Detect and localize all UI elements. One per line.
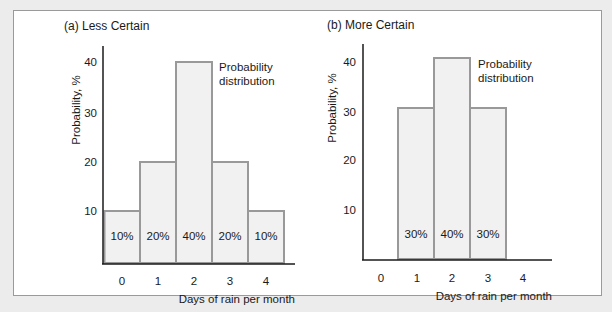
chart-a-ytick-20: 20 <box>84 156 97 168</box>
chart-b-xlabel: Days of rain per month <box>436 290 552 302</box>
chart-b-ytick-20: 20 <box>343 154 356 166</box>
chart-a-bar-3 <box>212 162 248 263</box>
chart-a-annotation-line1: Probability <box>219 61 273 73</box>
chart-b-bar-label-2: 40% <box>440 228 463 240</box>
chart-b-xtick-2: 2 <box>449 272 455 284</box>
chart-a-ytick-40: 40 <box>84 56 97 68</box>
chart-a-xtick-4: 4 <box>263 275 270 287</box>
chart-b-xtick-0: 0 <box>378 272 384 284</box>
chart-a-bar-label-4: 10% <box>254 230 277 242</box>
chart-a-bar-1 <box>140 162 176 263</box>
chart-a-xlabel: Days of rain per month <box>179 293 295 305</box>
chart-b-annotation-line1: Probability <box>478 58 532 70</box>
chart-a-annotation-line2: distribution <box>219 75 275 87</box>
chart-a-ytick-10: 10 <box>84 205 97 217</box>
chart-a: (a) Less Certain Probability, % 40 30 20… <box>64 19 295 305</box>
chart-b-xtick-3: 3 <box>485 272 491 284</box>
chart-b-xtick-1: 1 <box>414 272 420 284</box>
chart-b-annotation-line2: distribution <box>478 72 534 84</box>
chart-a-xtick-1: 1 <box>155 275 161 287</box>
chart-b-ytick-30: 30 <box>343 106 356 118</box>
chart-a-ytick-30: 30 <box>84 107 97 119</box>
chart-a-xtick-3: 3 <box>227 275 233 287</box>
chart-b-ytick-40: 40 <box>343 56 356 68</box>
chart-a-bar-label-0: 10% <box>110 230 133 242</box>
charts-canvas: (a) Less Certain Probability, % 40 30 20… <box>0 0 612 312</box>
chart-a-ylabel: Probability, % <box>70 75 82 144</box>
chart-a-bar-label-1: 20% <box>146 230 169 242</box>
chart-a-title: (a) Less Certain <box>64 19 149 33</box>
chart-b-ylabel: Probability, % <box>326 73 338 142</box>
chart-b-bar-label-1: 30% <box>404 228 427 240</box>
chart-b-title: (b) More Certain <box>327 18 414 32</box>
chart-a-xtick-0: 0 <box>119 275 125 287</box>
chart-a-xtick-2: 2 <box>191 275 197 287</box>
chart-a-bar-label-3: 20% <box>218 230 241 242</box>
chart-b: (b) More Certain Probability, % 40 30 20… <box>326 18 552 302</box>
chart-a-bar-label-2: 40% <box>182 230 205 242</box>
chart-b-xtick-4: 4 <box>520 272 527 284</box>
chart-b-bar-label-3: 30% <box>476 228 499 240</box>
chart-b-ytick-10: 10 <box>343 204 356 216</box>
